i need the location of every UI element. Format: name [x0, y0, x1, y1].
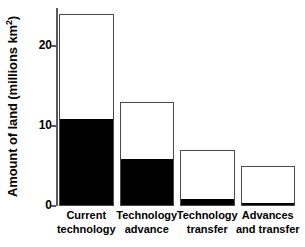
y-tick-label-0: 0: [30, 199, 52, 211]
x-label-advances-and-transfer-line2: and transfer: [236, 223, 301, 237]
x-axis-category-labels: Current technology Technology advance Te…: [59, 209, 301, 247]
x-label-technology-advance-line2: advance: [115, 223, 180, 237]
y-tick-mark-20: [51, 45, 56, 47]
x-label-advances-and-transfer-line1: Advances: [236, 209, 301, 223]
bar-fill-current-technology: [60, 119, 113, 205]
bar-advances-and-transfer[interactable]: [241, 166, 296, 206]
bar-group: [59, 8, 301, 206]
y-tick-label-20: 20: [30, 39, 52, 51]
x-label-technology-transfer-line1: Technology: [175, 209, 240, 223]
x-label-current-technology: Current technology: [54, 209, 119, 237]
x-label-technology-advance: Technology advance: [115, 209, 180, 237]
x-label-technology-transfer-line2: transfer: [175, 223, 240, 237]
bar-technology-advance[interactable]: [120, 102, 175, 206]
y-tick-mark-0: [51, 205, 56, 207]
x-label-technology-advance-line1: Technology: [115, 209, 180, 223]
bar-fill-technology-advance: [121, 159, 174, 205]
x-label-current-technology-line1: Current: [54, 209, 119, 223]
bar-technology-transfer[interactable]: [180, 150, 235, 206]
bar-current-technology[interactable]: [59, 14, 114, 206]
x-label-advances-and-transfer: Advances and transfer: [236, 209, 301, 237]
bar-chart: Amount of land (millions km2) 20 10 0: [0, 0, 305, 247]
y-axis-title-suffix: ): [6, 15, 21, 19]
plot-area: [56, 8, 301, 206]
bar-fill-advances-and-transfer: [242, 203, 295, 205]
x-label-current-technology-line2: technology: [54, 223, 119, 237]
y-axis-title-superscript: 2: [4, 20, 14, 25]
bar-fill-technology-transfer: [181, 199, 234, 205]
y-tick-label-10: 10: [30, 119, 52, 131]
y-axis-title: Amount of land (millions km2): [0, 0, 26, 212]
y-axis-line: [56, 8, 58, 206]
y-axis-tick-labels: 20 10 0: [26, 0, 52, 247]
x-label-technology-transfer: Technology transfer: [175, 209, 240, 237]
y-axis-title-text: Amount of land (millions km: [6, 25, 21, 197]
y-tick-mark-10: [51, 125, 56, 127]
